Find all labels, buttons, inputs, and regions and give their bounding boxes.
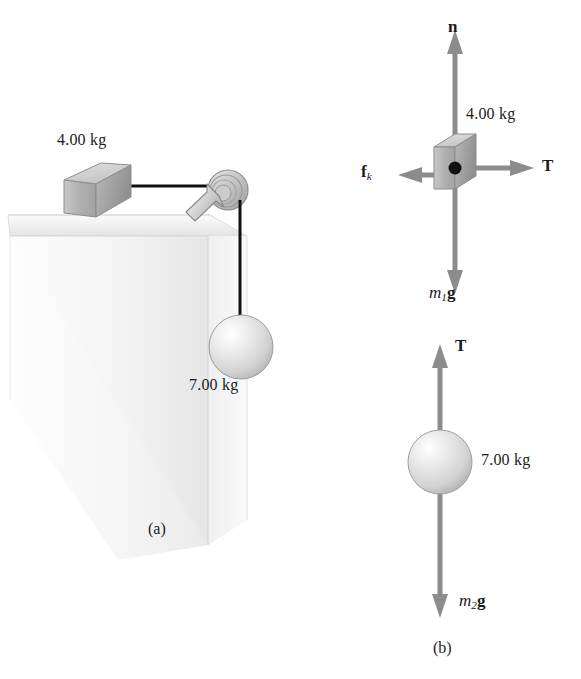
- panel-a-label: (a): [148, 521, 166, 537]
- tension-force-label-sphere: T: [455, 337, 466, 354]
- block-4kg: [64, 163, 131, 217]
- friction-force-label: fk: [361, 163, 372, 182]
- weight-force-label-sphere: m2g: [459, 592, 485, 611]
- mass2-symbol: m: [459, 591, 471, 610]
- fbd-block: [398, 30, 534, 294]
- tension-force-label-block: T: [542, 157, 553, 174]
- gravity-symbol-1: g: [447, 283, 456, 302]
- panel-a-block-mass-label: 4.00 kg: [57, 132, 106, 148]
- normal-force-label: n: [448, 18, 457, 35]
- fbd-sphere-body: [408, 430, 472, 494]
- tension-force-arrowhead-block: [510, 160, 534, 176]
- table-face-front: [10, 236, 208, 560]
- figure-canvas: 4.00 kg 7.00 kg (a) n 4.00 kg T fk m1g T…: [0, 0, 581, 679]
- tension-force-arrowhead-sphere: [432, 344, 448, 368]
- physics-diagram-svg: [0, 0, 581, 679]
- weight-force-arrowhead-sphere: [432, 594, 448, 618]
- friction-force-arrowhead: [398, 167, 422, 183]
- block-front-face: [64, 180, 96, 217]
- friction-subscript: k: [367, 170, 372, 182]
- mass1-symbol: m: [429, 283, 441, 302]
- fbd-block-mass-label: 4.00 kg: [466, 106, 515, 122]
- block-center-of-mass-dot: [449, 162, 462, 175]
- fbd-sphere: [408, 344, 472, 618]
- table-top-surface: [8, 215, 247, 236]
- weight-force-label-block: m1g: [429, 284, 455, 303]
- panel-a-sphere-mass-label: 7.00 kg: [189, 377, 238, 393]
- fbd-sphere-mass-label: 7.00 kg: [481, 452, 530, 468]
- panel-b-label: (b): [433, 640, 452, 656]
- panel-a-scene: [8, 163, 273, 560]
- sphere-7kg: [209, 315, 273, 379]
- gravity-symbol-2: g: [477, 591, 486, 610]
